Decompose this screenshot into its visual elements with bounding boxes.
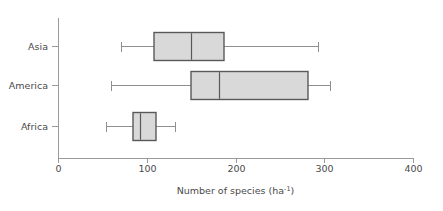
- chart-canvas: 0100200300400AsiaAmericaAfricaNumber of …: [0, 0, 443, 211]
- x-tick-label-200: 200: [227, 163, 245, 174]
- x-tick-label-0: 0: [55, 163, 61, 174]
- x-tick-label-400: 400: [404, 163, 422, 174]
- x-axis-title-main: Number of species (ha: [177, 185, 284, 196]
- boxplot-africa: [107, 113, 176, 141]
- x-tick-group: 0100200300400: [55, 158, 422, 174]
- category-label-africa: Africa: [21, 121, 48, 132]
- x-axis-title: Number of species (ha-1): [177, 185, 295, 196]
- x-axis-title-suffix: ): [291, 185, 295, 196]
- box-rect-america: [191, 72, 308, 100]
- box-plot-figure: 0100200300400AsiaAmericaAfricaNumber of …: [0, 0, 443, 211]
- x-tick-label-300: 300: [315, 163, 333, 174]
- boxplot-america: [112, 72, 331, 100]
- box-rect-asia: [154, 33, 224, 61]
- box-rect-africa: [133, 113, 156, 141]
- category-label-asia: Asia: [28, 41, 48, 52]
- category-axis-group: AsiaAmericaAfrica: [9, 41, 58, 132]
- x-tick-label-100: 100: [138, 163, 156, 174]
- boxplot-asia: [122, 33, 319, 61]
- category-label-america: America: [9, 80, 48, 91]
